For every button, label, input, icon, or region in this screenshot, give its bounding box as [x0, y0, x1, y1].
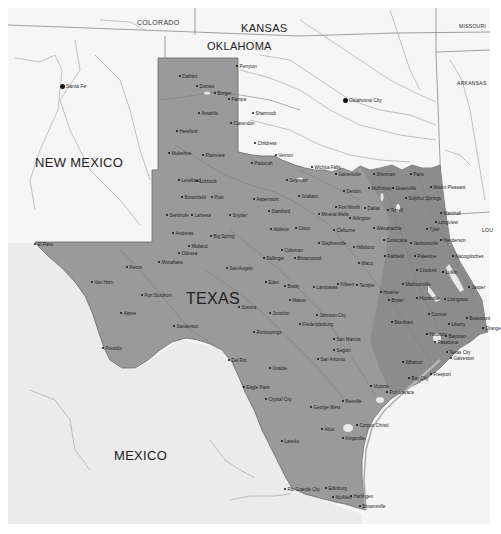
city-marker: Huntsville — [416, 296, 439, 301]
city-label: Brownsville — [362, 504, 385, 509]
city-label: Waco — [361, 261, 373, 266]
label-texas: TEXAS — [186, 290, 240, 308]
city-label: Brownwood — [297, 256, 321, 261]
city-label: Lufkin — [445, 270, 457, 275]
city-label: Greenville — [395, 186, 416, 191]
city-marker: Brenham — [391, 320, 413, 325]
city-label: Texas City — [449, 350, 470, 355]
city-label: Marshall — [443, 211, 460, 216]
city-label: Victoria — [373, 384, 388, 389]
city-label: Alice — [324, 427, 334, 432]
city-label: Oklahoma City — [349, 97, 382, 103]
city-label: Sherman — [376, 172, 395, 177]
city-marker: Paducah — [251, 161, 273, 166]
city-label: Tyler — [429, 227, 439, 232]
city-label: Ballinger — [266, 256, 284, 261]
city-marker: Fredericksburg — [299, 322, 333, 327]
label-kansas: KANSAS — [241, 22, 287, 34]
city-marker: Corsicana — [383, 238, 407, 243]
city-label: San Angelo — [229, 266, 253, 271]
city-marker: Livingston — [444, 297, 468, 302]
city-marker: McAllen — [332, 495, 352, 500]
city-label: Fredericksburg — [302, 322, 333, 327]
city-label: Madisonville — [405, 282, 430, 287]
city-marker: Dumas — [196, 84, 214, 89]
city-label: Clarendon — [233, 121, 254, 126]
city-marker: Temple — [356, 283, 374, 288]
city-label: San Marcos — [336, 337, 361, 342]
city-marker: Brady — [284, 284, 299, 289]
city-label: Fort Stockton — [144, 293, 171, 298]
city-label: Abilene — [273, 227, 288, 232]
label-colorado: COLORADO — [137, 19, 179, 26]
city-label: Henderson — [443, 238, 465, 243]
city-label: Van Horn — [94, 280, 113, 285]
city-marker: Stephenville — [318, 241, 346, 246]
city-label: Odessa — [181, 251, 197, 256]
city-marker: Vernon — [275, 153, 293, 158]
city-marker: Lampasas — [313, 285, 338, 290]
city-label: Post — [214, 195, 223, 200]
city-label: Killeen — [340, 282, 354, 287]
city-marker: Alice — [321, 427, 334, 432]
city-label: Dalhart — [182, 74, 197, 79]
city-label: Crystal City — [268, 397, 291, 402]
city-marker: Abilene — [270, 227, 289, 232]
city-marker: Sonora — [238, 305, 256, 310]
city-label: Temple — [359, 283, 374, 288]
city-marker: Killeen — [337, 282, 354, 287]
city-label: Corpus Christi — [359, 423, 388, 428]
city-label: Eden — [268, 280, 279, 285]
city-label: Presidio — [105, 346, 122, 351]
city-marker: Lamesa — [191, 213, 211, 218]
city-label: Gainesville — [338, 172, 360, 177]
city-marker: Paris — [410, 172, 424, 177]
city-label: Kingsville — [345, 436, 364, 441]
city-label: Muleshoe — [171, 151, 191, 156]
city-marker: Post — [211, 195, 224, 200]
city-marker: El Paso — [34, 242, 53, 247]
city-label: Stephenville — [321, 241, 346, 246]
city-marker: Lufkin — [442, 270, 458, 275]
city-marker: Corpus Christi — [356, 423, 389, 428]
city-label: McKinney — [371, 186, 391, 191]
city-label: Alpine — [123, 311, 136, 316]
city-marker: Longview — [435, 220, 458, 225]
city-label: Andrews — [175, 231, 193, 236]
city-label: Laredo — [284, 439, 298, 444]
city-label: Stamford — [271, 209, 290, 214]
city-label: Denton — [346, 189, 361, 194]
city-marker: Beeville — [342, 399, 361, 404]
city-marker: Kingsville — [342, 436, 365, 441]
city-marker: Bryan — [388, 298, 403, 303]
city-marker: Crystal City — [265, 397, 292, 402]
city-marker: Stamford — [268, 209, 290, 214]
city-marker: Palestine — [414, 254, 436, 259]
city-label: Graham — [301, 194, 318, 199]
city-marker: Del Rio — [228, 358, 246, 363]
city-label: Galveston — [453, 356, 474, 361]
city-label: Waxahachie — [376, 226, 401, 231]
city-marker: Fairfield — [384, 254, 404, 259]
city-marker: Mineral Wells — [318, 212, 349, 217]
city-label: San Antonio — [320, 357, 345, 362]
city-marker: Oklahoma City — [343, 98, 382, 103]
city-label: Port Lavaca — [389, 390, 414, 395]
city-label: Mount Pleasant — [433, 185, 465, 190]
city-marker: Victoria — [370, 384, 389, 389]
city-marker: Shamrock — [252, 111, 276, 116]
city-marker: Odessa — [178, 251, 197, 256]
city-marker: Amarillo — [198, 111, 218, 116]
city-marker: Jacksonville — [410, 241, 438, 246]
city-label: Amarillo — [201, 111, 218, 116]
city-marker: Houston — [426, 332, 447, 337]
city-marker: Pampa — [228, 97, 246, 102]
city-label: Livingston — [447, 297, 468, 302]
city-label: Aspermont — [256, 197, 278, 202]
city-marker: Waxahachie — [373, 226, 402, 231]
city-marker: Hillsboro — [353, 245, 374, 250]
city-label: Johnson City — [319, 313, 346, 318]
city-label: Junction — [272, 311, 289, 316]
city-label: Liberty — [451, 322, 465, 327]
city-label: Huntsville — [419, 296, 439, 301]
